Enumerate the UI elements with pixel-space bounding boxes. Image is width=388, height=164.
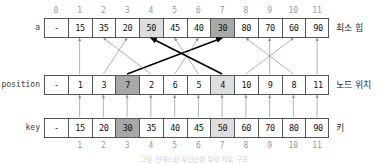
cell-a-5: 45	[164, 19, 188, 37]
index-bottom-2: 2	[91, 140, 115, 151]
index-top-5: 5	[163, 5, 187, 16]
cell-key-8: 60	[235, 119, 259, 137]
cell-position-3: 7	[116, 76, 140, 94]
cell-position-6: 5	[188, 76, 212, 94]
index-top-10: 10	[281, 5, 305, 16]
array-index-bottom: 1234567891011	[44, 140, 329, 151]
cell-a-3: 20	[116, 19, 140, 37]
cell-position-9: 9	[259, 76, 283, 94]
cell-a-6: 40	[188, 19, 212, 37]
cell-position-11: 11	[306, 76, 330, 94]
cell-a-10: 60	[283, 19, 307, 37]
index-bottom-3: 3	[115, 140, 139, 151]
cell-key-4: 35	[140, 119, 164, 137]
row-caption-key: 키	[336, 123, 344, 134]
arrow-position-10-to-a-8	[246, 38, 294, 74]
cell-key-2: 20	[93, 119, 117, 137]
cell-key-1: 15	[69, 119, 93, 137]
array-row-a: -1535205045403080706090	[44, 18, 329, 38]
index-top-0: 0	[44, 5, 68, 16]
index-bottom-1: 1	[68, 140, 92, 151]
cell-position-0: -	[45, 76, 69, 94]
cell-a-0: -	[45, 19, 69, 37]
arrow-position-5-to-a-6	[175, 38, 199, 74]
index-top-4: 4	[139, 5, 163, 16]
index-bottom-7: 7	[210, 140, 234, 151]
row-caption-position: 노드 위치	[336, 80, 371, 91]
index-bottom-10: 10	[281, 140, 305, 151]
cell-key-7: 50	[211, 119, 235, 137]
cell-a-4: 50	[140, 19, 164, 37]
cell-a-2: 35	[93, 19, 117, 37]
index-top-3: 3	[115, 5, 139, 16]
index-top-1: 1	[68, 5, 92, 16]
cell-a-11: 90	[306, 19, 330, 37]
index-top-6: 6	[186, 5, 210, 16]
cell-key-10: 80	[283, 119, 307, 137]
index-top-2: 2	[91, 5, 115, 16]
cell-position-10: 8	[283, 76, 307, 94]
cell-key-0: -	[45, 119, 69, 137]
arrow-position-7-to-a-4	[151, 38, 222, 74]
arrow-position-6-to-a-5	[175, 38, 199, 74]
array-index-top: 01234567891011	[44, 5, 329, 16]
index-top-8: 8	[234, 5, 258, 16]
array-row-key: -1520303540455060708090	[44, 118, 329, 138]
index-bottom-11: 11	[305, 140, 329, 151]
row-label-a: a	[4, 23, 40, 33]
cell-a-8: 80	[235, 19, 259, 37]
index-bottom-4: 4	[139, 140, 163, 151]
index-bottom-9: 9	[258, 140, 282, 151]
index-top-9: 9	[258, 5, 282, 16]
cell-key-11: 90	[306, 119, 330, 137]
cell-position-1: 1	[69, 76, 93, 94]
cell-position-2: 3	[93, 76, 117, 94]
cell-position-5: 6	[164, 76, 188, 94]
row-caption-a: 최소 힙	[336, 23, 363, 34]
index-bottom-8: 8	[234, 140, 258, 151]
cell-a-7: 30	[211, 19, 235, 37]
cell-key-9: 70	[259, 119, 283, 137]
cell-a-9: 70	[259, 19, 283, 37]
arrow-position-4-to-a-2	[103, 38, 151, 74]
cell-position-8: 10	[235, 76, 259, 94]
array-row-position: -1372654109811	[44, 75, 329, 95]
arrow-position-3-to-a-7	[127, 38, 222, 74]
cell-position-4: 2	[140, 76, 164, 94]
row-label-position: position	[0, 80, 40, 90]
cell-position-7: 4	[211, 76, 235, 94]
cell-key-3: 30	[116, 119, 140, 137]
figure-canvas: 01234567891011 a -1535205045403080706090…	[0, 0, 388, 164]
index-top-11: 11	[305, 5, 329, 16]
index-top-7: 7	[210, 5, 234, 16]
figure-caption: 그림 인덱스된 우선순위 큐의 자료 구조	[0, 156, 388, 163]
arrow-position-2-to-a-3	[103, 38, 127, 74]
cell-key-6: 45	[188, 119, 212, 137]
arrow-position-8-to-a-10	[246, 38, 294, 74]
index-bottom-5: 5	[163, 140, 187, 151]
index-bottom-6: 6	[186, 140, 210, 151]
row-label-key: key	[4, 123, 40, 133]
cell-key-5: 40	[164, 119, 188, 137]
cell-a-1: 15	[69, 19, 93, 37]
